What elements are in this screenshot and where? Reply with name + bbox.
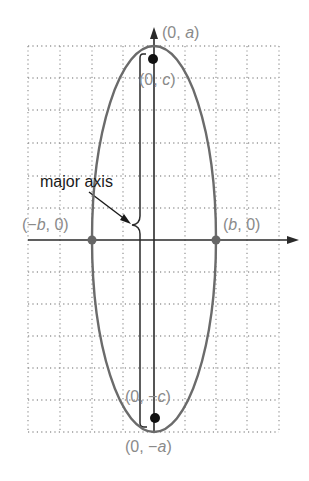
annotation-arrow: [89, 192, 131, 224]
top-focus-dot: [148, 54, 158, 64]
top-vertex-label: (0, a): [162, 24, 199, 41]
left-covertex-dot: [88, 236, 97, 245]
top-focus-label: (0, c): [139, 71, 175, 88]
arrowhead-icon: [120, 214, 131, 224]
right-covertex-dot: [212, 236, 221, 245]
major-axis-annotation: major axis: [40, 173, 113, 190]
x-axis-arrow-icon: [287, 236, 299, 244]
y-axis-arrow-icon: [150, 27, 158, 39]
ellipse-diagram: (0, a) (0, c) major axis (−b, 0) (b, 0) …: [0, 0, 309, 481]
bottom-vertex-label: (0, −a): [125, 438, 172, 455]
left-covertex-label: (−b, 0): [22, 216, 69, 233]
bottom-focus-dot: [150, 413, 160, 423]
right-covertex-label: (b, 0): [223, 216, 260, 233]
bottom-focus-label: (0, −c): [125, 388, 171, 405]
